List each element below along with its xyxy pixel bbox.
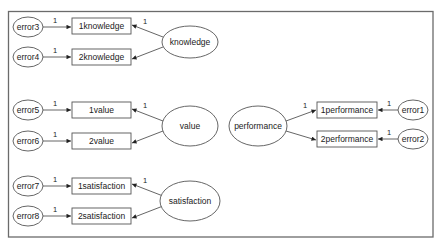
1performance-label: 1performance — [321, 105, 374, 115]
weight-satisfaction-1: 1 — [143, 176, 147, 185]
2satisfaction-label: 2satisfaction — [78, 211, 126, 221]
error4-label: error4 — [17, 52, 40, 62]
error5-label: error5 — [17, 105, 40, 115]
weight-error6: 1 — [53, 130, 57, 139]
weight-performance-1: 1 — [303, 101, 307, 110]
error2-label: error2 — [402, 134, 425, 144]
1value-label: 1value — [89, 105, 114, 115]
satisfaction-label: satisfaction — [169, 196, 212, 206]
knowledge-label: knowledge — [170, 37, 211, 47]
error1-label: error1 — [402, 105, 425, 115]
weight-error2: 1 — [387, 128, 391, 137]
1knowledge-label: 1knowledge — [79, 21, 125, 31]
diagram-frame — [9, 12, 434, 238]
weight-error5: 1 — [53, 99, 57, 108]
error3-label: error3 — [17, 22, 40, 32]
sem-diagram: error3 error4 1 1 1 1knowledge 2knowledg… — [0, 0, 443, 246]
error6-label: error6 — [17, 136, 40, 146]
weight-value-1: 1 — [143, 101, 147, 110]
weight-error1: 1 — [387, 99, 391, 108]
weight-knowledge-1: 1 — [143, 17, 147, 26]
error8-label: error8 — [17, 211, 40, 221]
value-label: value — [180, 121, 201, 131]
2knowledge-label: 2knowledge — [79, 52, 125, 62]
2value-label: 2value — [89, 136, 114, 146]
weight-error3: 1 — [53, 16, 57, 25]
error7-label: error7 — [17, 181, 40, 191]
weight-error8: 1 — [53, 205, 57, 214]
2performance-label: 2performance — [321, 134, 374, 144]
1satisfaction-label: 1satisfaction — [78, 181, 126, 191]
weight-error4: 1 — [53, 46, 57, 55]
weight-error7: 1 — [53, 175, 57, 184]
performance-label: performance — [234, 121, 282, 131]
